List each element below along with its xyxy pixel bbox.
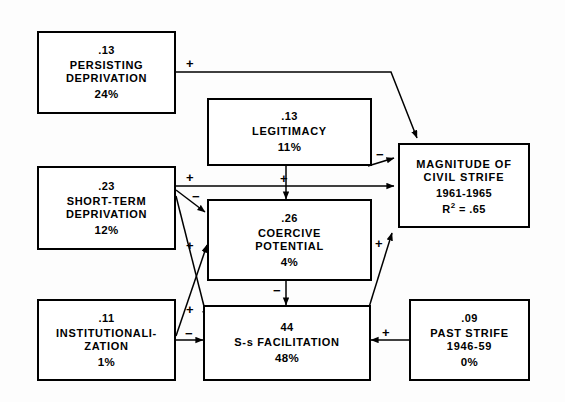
node-short-term-deprivation[interactable]: .23 SHORT-TERM DEPRIVATION 12% (37, 166, 176, 250)
coefficient-label: .11 (99, 312, 115, 324)
node-title: LEGITIMACY (252, 125, 327, 138)
variance-percent: 24% (94, 88, 118, 101)
node-institutionalization[interactable]: .11 INSTITUTIONALI- ZATION 1% (37, 299, 176, 381)
sign-legitimacy-to-strife: − (376, 148, 384, 161)
node-title: INSTITUTIONALI- ZATION (56, 327, 157, 353)
r-squared-value: R2 = .65 (442, 201, 485, 216)
variance-percent: 1% (98, 356, 115, 369)
node-title: PAST STRIFE 1946-59 (430, 327, 508, 353)
variance-percent: 0% (461, 356, 478, 369)
node-coercive-potential[interactable]: .26 COERCIVE POTENTIAL 4% (207, 199, 372, 281)
sign-shortterm-to-facilitation: + (186, 239, 194, 252)
coefficient-label: .13 (98, 44, 115, 56)
node-title: COERCIVE POTENTIAL (255, 227, 324, 253)
node-title: MAGNITUDE OF CIVIL STRIFE (416, 158, 512, 184)
sign-persisting-to-strife: + (186, 57, 194, 70)
r-squared-exponent: 2 (451, 201, 456, 210)
node-magnitude-civil-strife[interactable]: MAGNITUDE OF CIVIL STRIFE 1961-1965 R2 =… (398, 143, 530, 228)
sign-paststrife-to-facilitation: + (382, 326, 390, 339)
sign-shortterm-to-coercive: − (192, 190, 200, 203)
coefficient-label: .09 (461, 312, 478, 324)
sign-coercive-to-facilitation: − (273, 284, 281, 297)
variance-percent: 12% (94, 224, 118, 237)
node-title: S-s FACILITATION (234, 336, 340, 349)
sign-facilitation-to-strife: + (375, 237, 383, 250)
causal-path-diagram: .13 PERSISTING DEPRIVATION 24% .13 LEGIT… (0, 0, 565, 402)
variance-percent: 4% (281, 256, 298, 269)
outcome-years: 1961-1965 (436, 187, 492, 201)
sign-institutionalization-to-coercive: + (186, 303, 194, 316)
node-persisting-deprivation[interactable]: .13 PERSISTING DEPRIVATION 24% (37, 31, 176, 114)
coefficient-label: .26 (281, 212, 298, 224)
coefficient-label: .23 (98, 180, 115, 192)
variance-percent: 11% (278, 141, 302, 154)
node-ss-facilitation[interactable]: 44 S-s FACILITATION 48% (203, 305, 371, 381)
node-title: SHORT-TERM DEPRIVATION (66, 195, 147, 221)
sign-institutionalization-to-facilitation: − (185, 327, 193, 340)
coefficient-label: 44 (280, 321, 293, 333)
variance-percent: 48% (275, 352, 299, 365)
node-past-strife[interactable]: .09 PAST STRIFE 1946-59 0% (409, 299, 530, 381)
node-legitimacy[interactable]: .13 LEGITIMACY 11% (207, 98, 372, 166)
edge-shortterm-to-coercive (176, 190, 205, 212)
sign-legitimacy-to-coercive: + (280, 172, 288, 185)
sign-shortterm-to-strife: + (186, 171, 194, 184)
node-title: PERSISTING DEPRIVATION (66, 59, 147, 85)
coefficient-label: .13 (281, 110, 298, 122)
